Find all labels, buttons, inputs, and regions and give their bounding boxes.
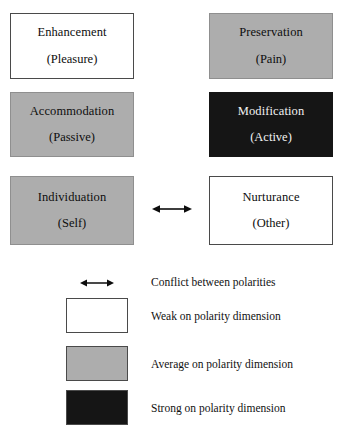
polarity-box-modification: Modification (Active)	[209, 92, 333, 157]
polarity-box-title: Accommodation	[30, 105, 115, 118]
polarity-box-title: Enhancement	[37, 26, 106, 39]
polarity-box-accommodation: Accommodation (Passive)	[10, 92, 134, 157]
polarity-box-title: Nurturance	[242, 191, 299, 204]
legend: Conflict between polarities Weak on pola…	[0, 270, 345, 435]
polarity-diagram: Enhancement (Pleasure) Preservation (Pai…	[0, 0, 345, 435]
legend-swatch-weak	[66, 298, 128, 333]
polarity-box-subtitle: (Pleasure)	[47, 53, 98, 66]
polarity-box-enhancement: Enhancement (Pleasure)	[10, 13, 134, 79]
polarity-box-subtitle: (Passive)	[49, 131, 95, 144]
legend-label: Average on polarity dimension	[151, 358, 293, 371]
polarity-box-subtitle: (Active)	[250, 131, 292, 144]
legend-label: Conflict between polarities	[151, 276, 276, 289]
polarity-box-nurturance: Nurturance (Other)	[209, 176, 333, 245]
legend-item-strong: Strong on polarity dimension	[0, 390, 345, 435]
double-headed-arrow-icon	[80, 277, 114, 289]
polarity-box-title: Modification	[238, 105, 304, 118]
legend-label: Strong on polarity dimension	[151, 402, 285, 415]
legend-label: Weak on polarity dimension	[151, 310, 281, 323]
polarity-box-preservation: Preservation (Pain)	[209, 13, 333, 79]
polarity-box-subtitle: (Self)	[58, 217, 86, 230]
legend-swatch-strong	[66, 390, 128, 425]
legend-item-weak: Weak on polarity dimension	[0, 298, 345, 346]
polarity-box-subtitle: (Pain)	[256, 53, 287, 66]
polarity-box-individuation: Individuation (Self)	[10, 176, 134, 245]
legend-item-average: Average on polarity dimension	[0, 346, 345, 394]
legend-swatch-average	[66, 346, 128, 381]
polarity-box-subtitle: (Other)	[253, 217, 290, 230]
double-headed-arrow-icon	[152, 202, 192, 216]
polarity-box-title: Individuation	[38, 191, 107, 204]
polarity-box-title: Preservation	[239, 26, 303, 39]
